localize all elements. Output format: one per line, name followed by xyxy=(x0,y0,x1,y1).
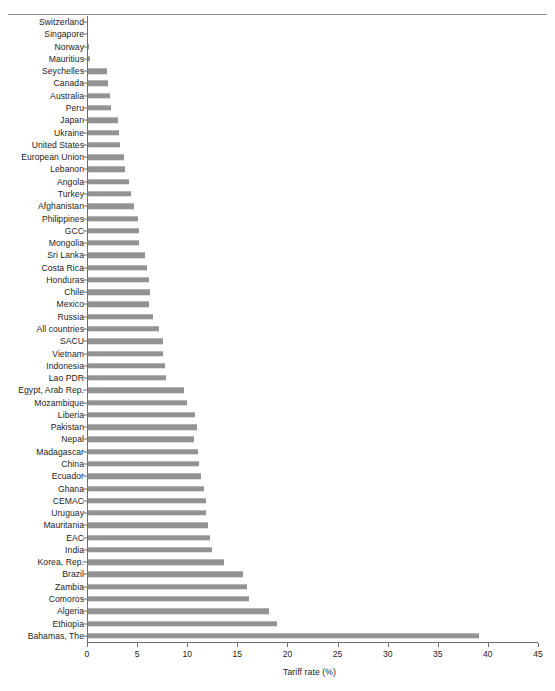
x-axis-tick xyxy=(287,643,288,647)
bar xyxy=(87,253,145,258)
bar xyxy=(87,437,194,442)
bar-row: GCC xyxy=(0,225,555,237)
category-label: Seychelles xyxy=(42,66,84,76)
bar-row: Egypt, Arab Rep. xyxy=(0,384,555,396)
category-label: Egypt, Arab Rep. xyxy=(18,385,84,395)
category-label: Ukraine xyxy=(54,128,84,138)
bar xyxy=(87,69,107,74)
bar xyxy=(87,547,212,552)
bar-row: Korea, Rep. xyxy=(0,556,555,568)
category-label: Angola xyxy=(57,177,84,187)
bar-row: Norway xyxy=(0,41,555,53)
bar xyxy=(87,228,139,233)
bar xyxy=(87,424,197,429)
category-label: Lebanon xyxy=(50,164,84,174)
bar xyxy=(87,277,149,282)
x-axis-tick-label: 20 xyxy=(283,649,293,659)
bar-row: All countries xyxy=(0,323,555,335)
bar xyxy=(87,81,108,86)
bar-row: Switzerland xyxy=(0,16,555,28)
category-label: Zambia xyxy=(55,582,84,592)
bar-row: Russia xyxy=(0,311,555,323)
bar-row: India xyxy=(0,544,555,556)
bar xyxy=(87,375,166,380)
category-label: Korea, Rep. xyxy=(38,557,84,567)
bar-row: Pakistan xyxy=(0,421,555,433)
bar xyxy=(87,498,206,503)
x-axis-tick xyxy=(87,643,88,647)
bar xyxy=(87,179,129,184)
bar-chart-plot-area: SwitzerlandSingaporeNorwayMauritiusSeych… xyxy=(0,0,555,691)
x-axis-tick-label: 0 xyxy=(85,649,90,659)
category-label: Ethiopia xyxy=(53,619,84,629)
bar xyxy=(87,191,131,196)
bar xyxy=(87,326,159,331)
bar xyxy=(87,105,111,110)
bar-row: Honduras xyxy=(0,274,555,286)
category-label: Ecuador xyxy=(52,471,84,481)
x-axis-title: Tariff rate (%) xyxy=(0,667,555,677)
bar-row: Australia xyxy=(0,90,555,102)
bar xyxy=(87,412,195,417)
bar xyxy=(87,351,163,356)
x-axis-tick-label: 45 xyxy=(533,649,543,659)
bar-row: Algeria xyxy=(0,605,555,617)
bar-row: Ukraine xyxy=(0,126,555,138)
bar xyxy=(87,523,208,528)
x-axis-tick-label: 5 xyxy=(135,649,140,659)
bar-row: Canada xyxy=(0,77,555,89)
bar xyxy=(87,216,138,221)
category-label: Mauritius xyxy=(49,54,84,64)
category-label: Canada xyxy=(54,78,84,88)
x-axis-tick-label: 25 xyxy=(333,649,343,659)
bar xyxy=(87,584,247,589)
category-label: Liberia xyxy=(58,410,84,420)
category-label: Afghanistan xyxy=(38,201,84,211)
x-axis-tick xyxy=(388,643,389,647)
bar-row: Ghana xyxy=(0,482,555,494)
category-label: China xyxy=(61,459,84,469)
bar-row: Vietnam xyxy=(0,347,555,359)
category-label: Philippines xyxy=(42,214,84,224)
bar-row: Bahamas, The xyxy=(0,630,555,642)
bar xyxy=(87,314,153,319)
bar-row: Angola xyxy=(0,176,555,188)
category-label: Algeria xyxy=(57,606,84,616)
category-label: Indonesia xyxy=(46,361,84,371)
bar xyxy=(87,93,110,98)
bar xyxy=(87,265,147,270)
category-label: Uruguay xyxy=(51,508,84,518)
x-axis-tick-label: 35 xyxy=(433,649,443,659)
bar xyxy=(87,154,124,159)
category-label: SACU xyxy=(60,336,84,346)
bar xyxy=(87,118,118,123)
x-axis-tick xyxy=(187,643,188,647)
category-label: Costa Rica xyxy=(41,263,84,273)
bar xyxy=(87,449,198,454)
category-label: Brazil xyxy=(62,569,84,579)
bar xyxy=(87,633,479,638)
bar xyxy=(87,572,243,577)
bar-row: European Union xyxy=(0,151,555,163)
category-label: EAC xyxy=(66,533,84,543)
category-label: Turkey xyxy=(58,189,84,199)
category-label: CEMAC xyxy=(53,496,84,506)
x-axis-tick xyxy=(137,643,138,647)
y-axis-line xyxy=(87,16,88,642)
category-label: Peru xyxy=(66,103,84,113)
bar-row: Mauritius xyxy=(0,53,555,65)
bar xyxy=(87,339,163,344)
bar xyxy=(87,486,204,491)
category-label: Madagascar xyxy=(36,447,84,457)
bar-row: Philippines xyxy=(0,212,555,224)
bar-row: Japan xyxy=(0,114,555,126)
bar-row: Costa Rica xyxy=(0,261,555,273)
bar xyxy=(87,535,210,540)
category-label: Mauritania xyxy=(43,520,84,530)
bar xyxy=(87,510,206,515)
x-axis-tick xyxy=(538,643,539,647)
category-label: Norway xyxy=(55,42,84,52)
chart-figure: SwitzerlandSingaporeNorwayMauritiusSeych… xyxy=(0,0,555,691)
bar-row: Mauritania xyxy=(0,519,555,531)
x-axis-tick-label: 10 xyxy=(182,649,192,659)
